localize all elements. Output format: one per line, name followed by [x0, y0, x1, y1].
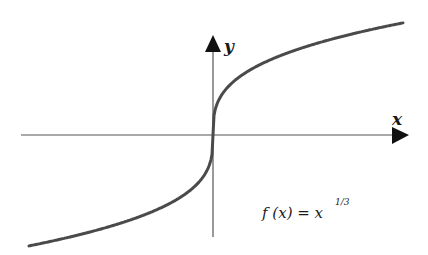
- y-axis-label: y: [223, 36, 235, 56]
- cube-root-graph: y x f (x) = x 1/3: [0, 0, 428, 255]
- formula-exponent: 1/3: [335, 197, 350, 207]
- formula-lhs: f (x) = x: [261, 204, 324, 222]
- function-formula: f (x) = x: [261, 204, 324, 222]
- x-axis-arrow-icon: [392, 127, 409, 144]
- y-axis-arrow-icon: [205, 35, 221, 52]
- x-axis-label: x: [391, 109, 403, 129]
